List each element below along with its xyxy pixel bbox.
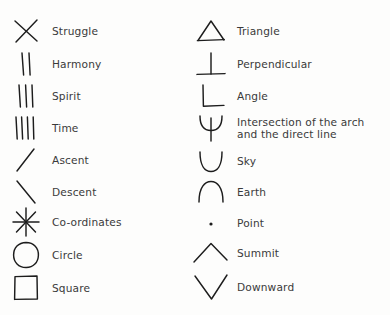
legend-row-summit: Summit [185, 236, 279, 270]
perpendicular-tee-icon [185, 49, 237, 79]
legend-row-time: Time [0, 111, 79, 145]
dome-arc-down-icon [185, 177, 237, 207]
legend-label: Descent [52, 186, 96, 199]
cross-x-icon [0, 16, 52, 46]
legend-row-circle: Circle [0, 238, 83, 272]
legend-label: Harmony [52, 58, 101, 71]
legend-label: Angle [237, 90, 268, 103]
legend-label: Downward [237, 281, 294, 294]
legend-row-struggle: Struggle [0, 14, 98, 48]
legend-label: Struggle [52, 25, 98, 38]
legend-row-harmony: Harmony [0, 47, 101, 81]
legend-label: Triangle [237, 25, 280, 38]
legend-label: Intersection of the arch and the direct … [237, 116, 364, 141]
legend-row-descent: Descent [0, 175, 96, 209]
legend-row-arch-intersection: Intersection of the arch and the direct … [185, 111, 364, 145]
three-vertical-lines-icon [0, 81, 52, 111]
rising-diagonal-line-icon [0, 145, 52, 175]
circle-icon [0, 239, 52, 271]
legend-row-point: Point [185, 206, 264, 240]
dot-point-icon [185, 208, 237, 238]
two-vertical-lines-icon [0, 49, 52, 79]
legend-label: Summit [237, 247, 279, 260]
legend-row-spirit: Spirit [0, 79, 81, 113]
right-angle-icon [185, 81, 237, 111]
legend-row-angle: Angle [185, 79, 268, 113]
legend-row-ascent: Ascent [0, 143, 89, 177]
legend-label: Ascent [52, 154, 89, 167]
legend-label: Earth [237, 186, 266, 199]
legend-row-sky: Sky [185, 144, 256, 178]
triangle-icon [185, 16, 237, 46]
legend-row-downward: Downward [185, 269, 294, 305]
legend-label: Time [52, 122, 79, 135]
chevron-up-summit-icon [185, 238, 237, 268]
legend-label: Spirit [52, 90, 81, 103]
asterisk-star-icon [0, 206, 52, 238]
legend-row-perpendicular: Perpendicular [185, 47, 312, 81]
arch-intersection-icon [185, 112, 237, 144]
legend-row-earth: Earth [185, 175, 266, 209]
legend-label: Point [237, 217, 264, 230]
legend-row-square: Square [0, 271, 90, 305]
square-icon [0, 272, 52, 304]
legend-label: Co-ordinates [52, 216, 122, 229]
legend-label: Perpendicular [237, 58, 312, 71]
legend-label: Sky [237, 155, 256, 168]
chevron-down-icon [185, 271, 237, 303]
legend-label: Square [52, 282, 90, 295]
four-vertical-lines-icon [0, 113, 52, 143]
legend-row-triangle: Triangle [185, 14, 280, 48]
legend-row-coordinates: Co-ordinates [0, 205, 122, 239]
falling-diagonal-line-icon [0, 177, 52, 207]
cup-arc-up-icon [185, 146, 237, 176]
legend-label: Circle [52, 249, 83, 262]
